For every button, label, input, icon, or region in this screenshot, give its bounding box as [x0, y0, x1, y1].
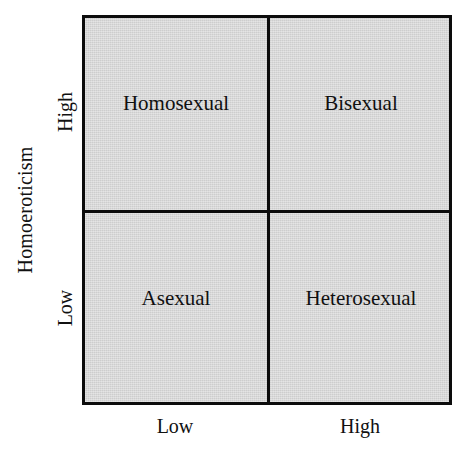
y-axis-tick-low: Low	[50, 248, 80, 368]
quadrant-label-bisexual: Bisexual	[270, 90, 452, 116]
x-axis-tick-low: Low	[105, 412, 245, 440]
quadrant-figure: Homoeroticism High Low Homosexual Bisexu…	[0, 0, 467, 457]
y-axis-title: Homoeroticism	[8, 15, 42, 405]
quadrant-label-asexual: Asexual	[85, 285, 267, 311]
y-axis-tick-high: High	[50, 52, 80, 172]
quadrant-bottom-right: Heterosexual	[270, 213, 452, 405]
plot-box: Homosexual Bisexual Asexual Heterosexual	[82, 15, 452, 405]
horizontal-divider-line	[85, 210, 449, 213]
quadrant-label-homosexual: Homosexual	[85, 90, 267, 116]
quadrant-bottom-left: Asexual	[85, 213, 267, 405]
x-axis-tick-high: High	[290, 412, 430, 440]
quadrant-top-left: Homosexual	[85, 18, 267, 210]
quadrant-top-right: Bisexual	[270, 18, 452, 210]
quadrant-label-heterosexual: Heterosexual	[270, 285, 452, 311]
